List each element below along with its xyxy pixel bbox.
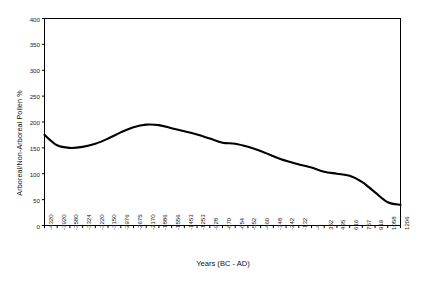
x-tick-label: -1556: [174, 214, 181, 230]
x-tick-label: -1886: [161, 214, 168, 230]
x-tick-label: -670: [225, 217, 232, 229]
x-tick-label: -3150: [110, 214, 117, 230]
x-tick-label: -4320: [47, 214, 54, 230]
x-tick-label: -3920: [60, 214, 67, 230]
x-tick-label: -460: [263, 217, 270, 229]
x-tick-label: -3220: [98, 214, 105, 230]
x-tick-label: 919: [377, 219, 384, 229]
x-tick-label: -654: [238, 217, 245, 229]
x-tick-label: -2675: [136, 214, 143, 230]
x-tick-label: -3324: [85, 214, 92, 230]
x-tick-label: -552: [250, 217, 257, 229]
x-tick-label: -348: [276, 217, 283, 229]
x-tick-label: -132: [301, 217, 308, 229]
x-tick-label: -3580: [72, 214, 79, 230]
x-tick-label: 1058: [390, 216, 397, 230]
pollen-line-chart: Arboreal/Non-Arboreal Pollen % 050100150…: [0, 0, 430, 286]
x-tick-label: -1253: [199, 214, 206, 230]
x-axis-title: Years (BC - AD): [44, 259, 402, 268]
x-tick-label: 352: [327, 219, 334, 229]
x-tick-label: -2170: [149, 214, 156, 230]
x-axis-tick-labels: -4320-3920-3580-3324-3220-3150-2976-2675…: [0, 0, 430, 286]
x-tick-label: 1206: [403, 216, 410, 230]
x-tick-label: -1453: [187, 214, 194, 230]
x-tick-label: -4: [314, 224, 321, 229]
x-tick-label: -242: [288, 217, 295, 229]
x-tick-label: -928: [212, 217, 219, 229]
x-tick-label: 495: [339, 219, 346, 229]
x-tick-label: 616: [352, 219, 359, 229]
x-tick-label: -2976: [123, 214, 130, 230]
x-tick-label: 757: [365, 219, 372, 229]
